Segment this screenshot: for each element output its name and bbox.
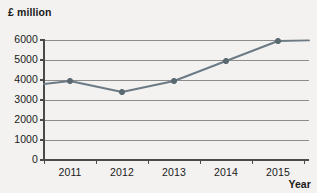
data-line-series [44, 40, 309, 92]
plot-area [0, 0, 317, 193]
line-chart-figure: £ million Year 0100020003000400050006000… [0, 0, 317, 193]
gridlines [44, 40, 309, 160]
data-point-markers [67, 38, 280, 94]
